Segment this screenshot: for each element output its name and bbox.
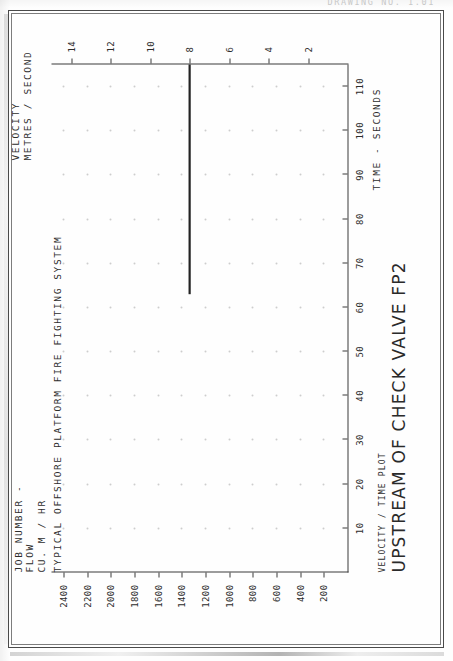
flow-tick-label: 2000 xyxy=(105,585,115,608)
job-number-line: JOB NUMBER - xyxy=(11,236,24,573)
rotated-plot-container: JOB NUMBER - TYPICAL OFFSHORE PLATFORM F… xyxy=(29,31,424,631)
time-tick-label: 80 xyxy=(354,213,364,225)
flow-tick xyxy=(181,573,182,578)
velocity-tick xyxy=(308,59,309,64)
time-tick-label: 60 xyxy=(354,302,364,314)
flow-tick-label: 1800 xyxy=(129,585,139,608)
velocity-tick-label: 8 xyxy=(184,47,194,53)
time-tick-label: 90 xyxy=(354,169,364,181)
velocity-tick-label: 6 xyxy=(224,47,234,53)
flow-tick-label: 1000 xyxy=(224,585,234,608)
flow-tick-label: 1400 xyxy=(176,585,186,608)
velocity-tick-label: 2 xyxy=(303,47,313,53)
flow-tick-label: 800 xyxy=(247,585,257,602)
time-tick-label: 40 xyxy=(354,390,364,402)
velocity-tick-label: 10 xyxy=(145,41,155,53)
time-tick-label: 30 xyxy=(354,434,364,446)
flow-tick-label: 1200 xyxy=(200,585,210,608)
plot-surface: JOB NUMBER - TYPICAL OFFSHORE PLATFORM F… xyxy=(29,31,424,631)
flow-tick xyxy=(158,573,159,578)
velocity-tick xyxy=(189,59,190,64)
flow-tick xyxy=(300,573,301,578)
velocity-tick-label: 12 xyxy=(105,41,115,53)
flow-tick-label: 200 xyxy=(318,585,328,602)
time-tick-label: 20 xyxy=(354,478,364,490)
flow-tick xyxy=(205,573,206,578)
velocity-tick xyxy=(71,59,72,64)
plot-title-block: VELOCITY / TIME PLOT UPSTREAM OF CHECK V… xyxy=(377,261,408,572)
time-tick-label: 100 xyxy=(354,122,364,139)
time-tick-label: 50 xyxy=(354,346,364,358)
flow-tick xyxy=(110,573,111,578)
velocity-trace xyxy=(51,65,348,573)
flow-tick-label: 600 xyxy=(271,585,281,602)
flow-axis-caption: FLOW CU. M / HR xyxy=(23,499,47,572)
plot-kind-label: VELOCITY / TIME PLOT xyxy=(377,261,386,572)
flow-tick xyxy=(229,573,230,578)
time-axis-caption: TIME - SECONDS xyxy=(370,88,382,190)
scan-edge-smudge-bottom xyxy=(10,652,444,656)
velocity-tick xyxy=(229,59,230,64)
flow-tick xyxy=(63,573,64,578)
flow-tick xyxy=(276,573,277,578)
time-tick-label: 110 xyxy=(354,78,364,95)
flow-tick xyxy=(134,573,135,578)
velocity-tick xyxy=(110,59,111,64)
velocity-tick xyxy=(268,59,269,64)
flow-tick-label: 2400 xyxy=(58,585,68,608)
velocity-axis-caption: VELOCITY METRES / SECOND xyxy=(9,51,33,161)
flow-tick xyxy=(323,573,324,578)
plot-title-text: UPSTREAM OF CHECK VALVE FP2 xyxy=(388,261,408,572)
flow-tick xyxy=(87,573,88,578)
velocity-tick-label: 14 xyxy=(66,41,76,53)
flow-tick xyxy=(252,573,253,578)
drawing-number-label: DRAWING NO. 1.01 xyxy=(328,0,435,7)
flow-tick-label: 2200 xyxy=(82,585,92,608)
flow-tick-label: 400 xyxy=(295,585,305,602)
time-tick-label: 70 xyxy=(354,257,364,269)
flow-tick-label: 1600 xyxy=(153,585,163,608)
velocity-tick xyxy=(150,59,151,64)
time-tick-label: 10 xyxy=(354,523,364,535)
velocity-tick-label: 4 xyxy=(263,47,273,53)
